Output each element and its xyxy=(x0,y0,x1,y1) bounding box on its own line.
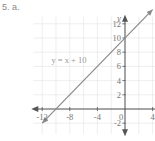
x-tick-label: -8 xyxy=(66,112,73,122)
x-tick-label: -4 xyxy=(94,112,102,122)
x-tick-label: 4 xyxy=(150,112,155,122)
y-axis-arrow-down xyxy=(122,129,128,136)
y-tick-label: 6 xyxy=(117,61,121,71)
chart: -12-8-404-224681012xyy = x + 10 xyxy=(0,0,155,141)
y-axis-arrow-up xyxy=(122,15,128,22)
y-tick-label: 8 xyxy=(117,47,121,57)
equation-label: y = x + 10 xyxy=(51,55,86,65)
y-tick-label: 10 xyxy=(113,33,122,43)
y-tick-label: 2 xyxy=(117,90,121,100)
y-axis-label: y xyxy=(116,13,121,23)
x-tick-label: -12 xyxy=(37,112,48,122)
y-tick-label: -2 xyxy=(114,118,121,128)
